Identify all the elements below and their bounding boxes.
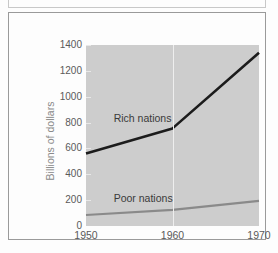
y-tick-label-800: 800	[65, 118, 82, 128]
x-tick-label-1960: 1960	[161, 229, 184, 241]
chart-page: Billions of dollars 02004006008001000120…	[0, 0, 278, 253]
y-tick-label-1200: 1200	[60, 66, 82, 76]
gridline-vertical-1960	[173, 45, 174, 226]
y-tick-mark-400	[86, 174, 91, 175]
series-label-poor-nations: Poor nations	[114, 193, 173, 204]
y-tick-label-1400: 1400	[60, 40, 82, 50]
y-tick-mark-1000	[86, 97, 91, 98]
y-tick-mark-1200	[86, 71, 91, 72]
x-tick-label-1950: 1950	[74, 229, 97, 241]
y-tick-label-1000: 1000	[60, 92, 82, 102]
x-tick-label-1970: 1970	[247, 229, 270, 241]
y-tick-mark-1400	[86, 45, 91, 46]
y-tick-mark-800	[86, 123, 91, 124]
figure-frame: Billions of dollars 02004006008001000120…	[8, 12, 266, 240]
series-label-rich-nations: Rich nations	[114, 113, 172, 124]
y-tick-label-200: 200	[65, 195, 82, 205]
y-tick-mark-200	[86, 200, 91, 201]
y-axis-tick-labels: 0200400600800100012001400	[42, 45, 82, 226]
plot-area: Rich nationsPoor nations	[86, 45, 259, 226]
y-tick-label-600: 600	[65, 143, 82, 153]
y-tick-mark-600	[86, 148, 91, 149]
page-top-frame	[8, 0, 266, 8]
y-tick-label-400: 400	[65, 169, 82, 179]
x-axis-tick-labels: 195019601970	[9, 229, 278, 245]
